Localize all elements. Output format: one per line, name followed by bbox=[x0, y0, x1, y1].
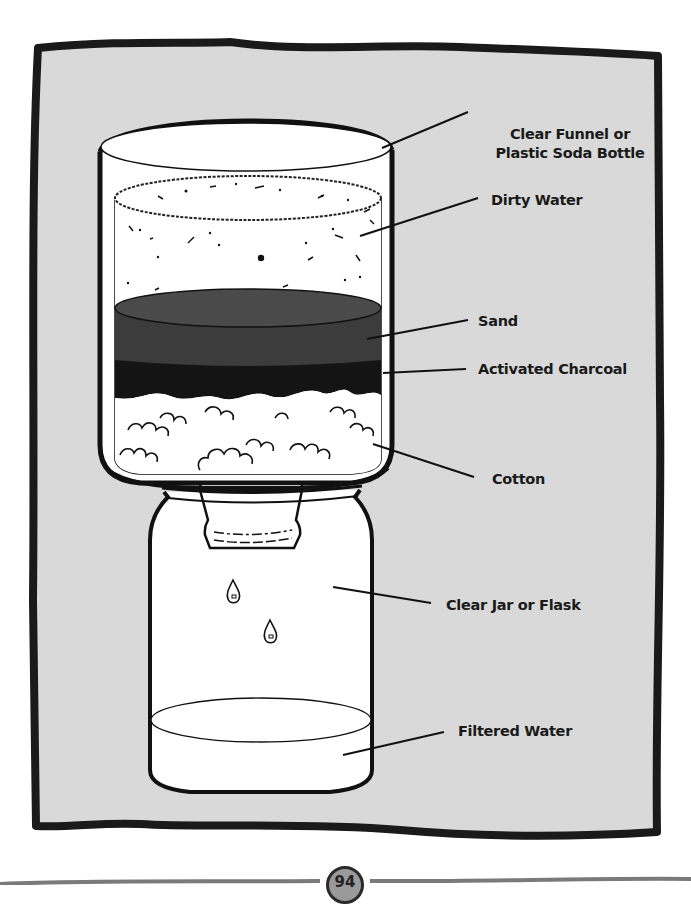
cotton-layer bbox=[115, 390, 381, 474]
label-cotton: Cotton bbox=[492, 470, 545, 489]
label-clear-jar: Clear Jar or Flask bbox=[446, 596, 581, 615]
label-filtered-water: Filtered Water bbox=[458, 722, 572, 741]
label-sand: Sand bbox=[478, 312, 518, 331]
label-funnel: Clear Funnel or Plastic Soda Bottle bbox=[470, 125, 670, 163]
label-dirty-water: Dirty Water bbox=[491, 191, 582, 210]
sand-layer bbox=[115, 289, 381, 375]
label-activated-charcoal: Activated Charcoal bbox=[478, 360, 627, 379]
filtered-water-layer bbox=[151, 698, 371, 742]
page-number-badge: 94 bbox=[326, 866, 364, 904]
dirty-water-layer bbox=[115, 176, 381, 308]
